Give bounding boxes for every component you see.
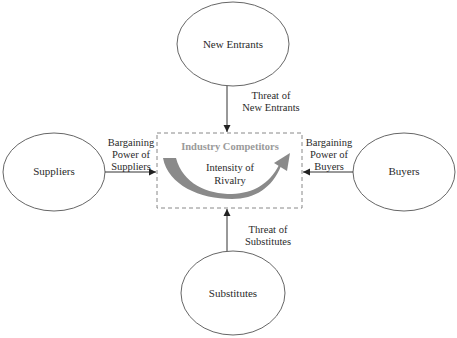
edge-label-line: Buyers <box>300 161 358 173</box>
node-suppliers-label: Suppliers <box>4 165 104 178</box>
edge-label-line: Bargaining <box>300 137 358 149</box>
center-subtitle-line: Rivalry <box>180 175 280 188</box>
center-subtitle: Intensity of Rivalry <box>180 162 280 187</box>
edge-label-line: Substitutes <box>228 236 308 248</box>
edge-label-suppliers: Bargaining Power of Suppliers <box>100 137 162 173</box>
edge-label-line: Threat of <box>231 90 311 102</box>
edge-label-buyers: Bargaining Power of Buyers <box>300 137 358 173</box>
edge-label-line: Power of <box>300 149 358 161</box>
edge-label-line: Suppliers <box>100 161 162 173</box>
edge-label-line: New Entrants <box>231 102 311 114</box>
edge-label-line: Bargaining <box>100 137 162 149</box>
edge-label-line: Power of <box>100 149 162 161</box>
edge-label-substitutes: Threat of Substitutes <box>228 224 308 248</box>
center-subtitle-line: Intensity of <box>180 162 280 175</box>
node-substitutes-label: Substitutes <box>183 287 283 300</box>
edge-label-new-entrants: Threat of New Entrants <box>231 90 311 114</box>
node-new-entrants-label: New Entrants <box>183 38 283 51</box>
center-title: Industry Competitors <box>160 141 300 152</box>
edge-label-line: Threat of <box>228 224 308 236</box>
node-buyers-label: Buyers <box>354 165 454 178</box>
